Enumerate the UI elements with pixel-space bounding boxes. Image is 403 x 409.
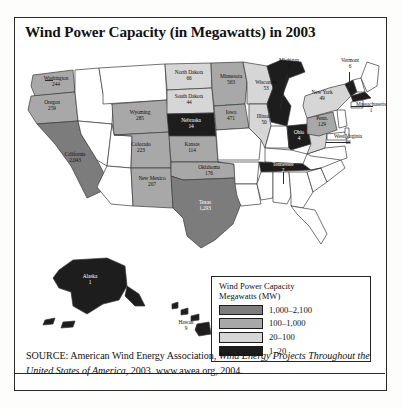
state-shape-minnesota	[211, 62, 247, 106]
source-title-part-1: Wind Energy Projects	[219, 350, 306, 361]
state-shape-kansas	[169, 136, 218, 162]
source-note: SOURCE: American Wind Energy Association…	[26, 349, 376, 378]
state-shape-hawaii-maui	[191, 314, 199, 321]
state-shape-north-dakota	[165, 63, 212, 90]
state-shape-montana	[99, 64, 167, 104]
state-shape-alabama	[273, 172, 291, 204]
page-title: Wind Power Capacity (in Megawatts) in 20…	[25, 23, 375, 41]
legend-title-line-1: Wind Power Capacity	[219, 281, 364, 291]
source-suffix: , 2003. www.awea.org, 2004.	[126, 365, 243, 376]
state-shape-delaware	[345, 128, 349, 138]
state-shape-florida	[291, 206, 327, 244]
legend-label-20-100: 20–100	[269, 333, 295, 342]
leader-line-west-virginia	[326, 142, 350, 143]
state-shape-new-jersey	[337, 110, 347, 128]
state-shape-new-mexico	[131, 168, 173, 208]
legend-label-100-1000: 100–1,000	[269, 319, 306, 328]
legend-swatch-1000-2100	[219, 305, 263, 316]
state-shape-nebraska	[167, 113, 216, 136]
state-shape-alaska-panhandle	[125, 286, 145, 306]
source-prefix: SOURCE: American Wind Energy Association…	[26, 350, 219, 361]
state-shape-alaska	[53, 258, 127, 314]
figure-page: Wind Power Capacity (in Megawatts) in 20…	[0, 0, 403, 409]
state-shape-south-dakota	[167, 88, 214, 114]
state-shape-oklahoma	[171, 162, 235, 180]
figure-frame: Wind Power Capacity (in Megawatts) in 20…	[14, 17, 387, 391]
state-shape-michigan	[267, 60, 305, 126]
leader-line-washington	[45, 80, 53, 81]
state-shape-hawaii-kauai	[172, 302, 178, 309]
legend-item-20-100: 20–100	[219, 331, 364, 343]
state-shape-alaska-aleutians-2	[61, 321, 75, 328]
state-shape-hawaii-bigisland	[195, 322, 211, 336]
legend-title: Wind Power Capacity Megawatts (MW)	[219, 281, 364, 302]
state-shape-maryland	[327, 132, 347, 140]
leader-line-tennessee	[283, 170, 284, 184]
state-shape-kentucky	[265, 148, 307, 164]
leader-line-massachusetts	[351, 106, 373, 107]
legend-item-1000-2100: 1,000–2,100	[219, 304, 364, 316]
state-shape-alaska-aleutians-1	[43, 318, 55, 325]
state-shape-hawaii-oahu	[181, 308, 188, 315]
leader-line-vermont	[349, 72, 350, 88]
legend-item-100-1000: 100–1,000	[219, 318, 364, 330]
us-choropleth-map: Washington 244 Oregon 259 California 2,0…	[15, 48, 386, 342]
state-shape-washington	[31, 70, 75, 96]
state-shape-oregon	[28, 92, 78, 124]
state-shape-wyoming	[112, 100, 169, 135]
legend-title-line-2: Megawatts (MW)	[219, 291, 364, 301]
legend-swatch-20-100	[219, 332, 263, 343]
state-shape-iowa	[214, 104, 249, 130]
legend-swatch-100-1000	[219, 318, 263, 329]
legend-label-1000-2100: 1,000–2,100	[269, 306, 312, 315]
state-shape-texas	[171, 176, 241, 248]
